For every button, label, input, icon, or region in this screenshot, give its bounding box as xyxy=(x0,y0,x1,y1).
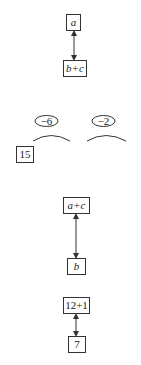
box-15-label: 15 xyxy=(20,149,31,160)
oval-minus-6-text: −6 xyxy=(41,116,53,127)
box-7-label: 7 xyxy=(74,339,80,350)
oval-minus-6-label: −6 xyxy=(35,115,58,127)
box-b-label: b xyxy=(74,261,80,272)
box-a-label: a xyxy=(71,17,77,28)
arc-right xyxy=(87,136,126,142)
box-7: 7 xyxy=(68,336,86,353)
box-b: b xyxy=(67,258,86,275)
box-12-plus-1: 12+1 xyxy=(63,297,90,314)
arc-left xyxy=(33,136,70,142)
box-12-plus-1-label: 12+1 xyxy=(65,300,88,311)
oval-minus-2-text: −2 xyxy=(98,116,110,127)
box-a-plus-c-label: a+c xyxy=(68,200,86,211)
box-b-plus-c-label: b+c xyxy=(66,63,84,74)
box-a-plus-c: a+c xyxy=(63,197,90,214)
box-15: 15 xyxy=(16,146,34,163)
oval-minus-2-label: −2 xyxy=(92,115,115,127)
box-a: a xyxy=(66,14,81,31)
box-b-plus-c: b+c xyxy=(63,60,87,77)
